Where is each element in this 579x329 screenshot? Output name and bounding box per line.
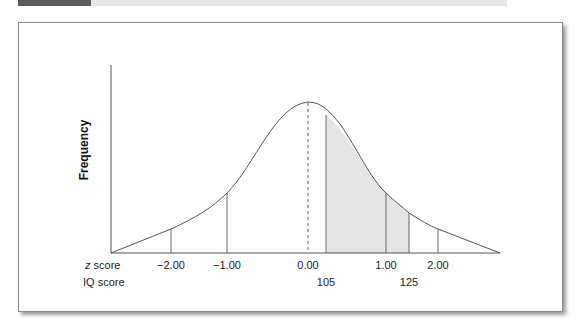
z-tick: −1.00 (213, 259, 241, 271)
z-tick: 1.00 (375, 259, 396, 271)
shaded-region (326, 115, 409, 253)
iq-tick: 105 (317, 276, 335, 288)
z-tick: −2.00 (157, 259, 185, 271)
z-tick: 0.00 (297, 259, 318, 271)
y-axis-label: Frequency (77, 120, 91, 181)
iq-tick: 125 (400, 276, 418, 288)
z-label-text: score (91, 259, 121, 271)
z-tick: 2.00 (427, 259, 448, 271)
z-score-label: z score (85, 259, 120, 271)
iq-score-label: IQ score (83, 276, 125, 288)
normal-curve (111, 102, 500, 253)
